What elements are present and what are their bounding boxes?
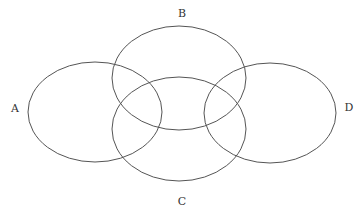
set-a-label: A: [10, 102, 20, 115]
set-b-label: B: [178, 7, 186, 20]
set-d-label: D: [345, 101, 354, 114]
set-b-ellipse: [112, 26, 246, 130]
set-a-ellipse: [28, 62, 162, 162]
set-d-ellipse: [204, 63, 336, 163]
set-c-ellipse: [112, 77, 246, 181]
venn-diagram: A B C D: [0, 0, 364, 213]
set-c-label: C: [178, 195, 186, 208]
